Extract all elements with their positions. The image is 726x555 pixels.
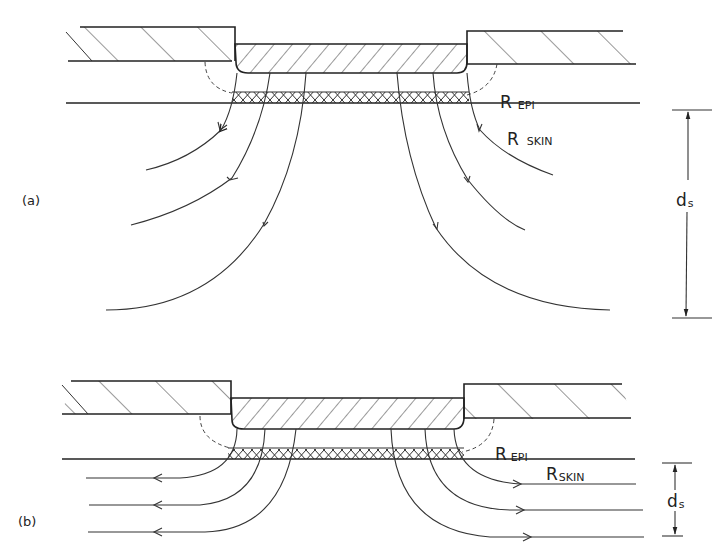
right-oxide-layer [464,384,631,419]
epi-resistive-band [232,92,469,103]
flow-line [86,429,237,478]
ds-dimension-a: ds [672,110,712,318]
r-skin-label-a: RSKIN [507,129,552,149]
ds-dimension-b: ds [662,463,692,536]
r-epi-label-b: REPI [495,444,528,464]
figure-canvas: REPI RSKIN (a) ds [0,0,726,555]
panel-label-b: (b) [18,514,36,529]
right-oxide-layer [467,31,636,64]
current-flow-lines-b [86,429,644,541]
flow-line [425,429,643,510]
arrowhead [218,122,227,130]
contact-metal [231,398,464,429]
junction-curve-left [200,416,230,448]
arrowhead [263,222,268,226]
junction-curve-right [467,64,497,95]
flow-line [454,429,636,484]
left-oxide-layer [62,381,231,414]
flow-line [88,429,296,532]
ds-label-b: ds [667,491,685,511]
flow-line [106,73,306,310]
junction-curve-right [462,419,494,452]
junction-curve-left [205,62,232,93]
arrowhead [477,124,482,131]
r-epi-label-a: REPI [500,92,535,112]
contact-metal [235,44,467,73]
panel-a: REPI RSKIN (a) ds [22,27,712,318]
flow-line [391,429,644,537]
left-oxide-layer [66,27,235,61]
flow-line [89,429,265,505]
panel-b: REPI RSKIN (b) ds [18,381,692,541]
ds-label-a: ds [676,190,694,210]
flow-line [146,73,237,170]
panel-label-a: (a) [22,193,40,208]
r-skin-label-b: RSKIN [546,464,584,484]
flow-line [467,73,553,175]
